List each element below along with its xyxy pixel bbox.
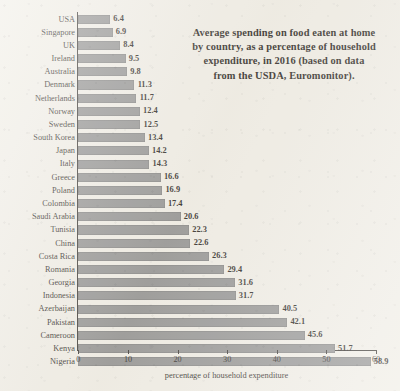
category-label: Azerbaijan <box>0 303 75 314</box>
bar-value-label: 40.5 <box>282 303 297 315</box>
category-label: Romania <box>0 264 75 275</box>
category-label: Costa Rica <box>0 251 75 262</box>
bar-value-label: 20.6 <box>184 211 199 223</box>
bar <box>78 54 125 63</box>
chart-title-line: by country, as a percentage of household <box>178 40 390 54</box>
bar-value-label: 6.9 <box>116 26 126 38</box>
category-label: China <box>0 238 75 249</box>
bar <box>78 265 224 274</box>
bar-row: Costa Rica26.3 <box>0 250 400 263</box>
x-tick-label: 30 <box>212 355 242 364</box>
bar-row: Romania29.4 <box>0 263 400 276</box>
bar <box>78 107 140 116</box>
x-tick-label: 0 <box>63 355 93 364</box>
category-label: Denmark <box>0 79 75 90</box>
chart-title-line: expenditure, in 2016 (based on data <box>178 54 390 68</box>
bar-row: Sweden12.5 <box>0 118 400 131</box>
bar <box>78 120 140 129</box>
bar-value-label: 9.5 <box>129 53 139 65</box>
bar <box>78 146 148 155</box>
x-tick-label: 50 <box>311 355 341 364</box>
bar-row: Colombia17.4 <box>0 197 400 210</box>
bar-row: Norway12.4 <box>0 105 400 118</box>
category-label: Greece <box>0 172 75 183</box>
bar-row: Kenya51.7 <box>0 342 400 355</box>
bar-value-label: 11.7 <box>140 92 154 104</box>
chart-title-line: from the USDA, Euromonitor). <box>178 69 390 83</box>
bar <box>78 160 149 169</box>
bar-value-label: 12.4 <box>143 105 158 117</box>
category-label: Singapore <box>0 27 75 38</box>
bar-row: Azerbaijan40.5 <box>0 302 400 315</box>
category-label: UK <box>0 40 75 51</box>
category-label: Georgia <box>0 277 75 288</box>
bar-value-label: 31.6 <box>238 277 253 289</box>
x-tick-mark <box>326 350 327 354</box>
bar <box>78 344 334 353</box>
bar-row: Tunisia22.3 <box>0 223 400 236</box>
bar-value-label: 8.4 <box>123 39 133 51</box>
bar-value-label: 42.1 <box>290 316 305 328</box>
bar-row: Japan14.2 <box>0 144 400 157</box>
bar-value-label: 14.2 <box>152 145 167 157</box>
x-tick-mark <box>376 350 377 354</box>
bar-row: Pakistan42.1 <box>0 316 400 329</box>
bar-row: Italy14.3 <box>0 157 400 170</box>
bar-row: Saudi Arabia20.6 <box>0 210 400 223</box>
category-label: Kenya <box>0 343 75 354</box>
food-spending-bar-chart: USA6.4Singapore6.9UK8.4Ireland9.5Austral… <box>0 0 400 391</box>
bar <box>78 252 208 261</box>
x-tick-mark <box>227 350 228 354</box>
bar-value-label: 22.3 <box>192 224 207 236</box>
category-label: Italy <box>0 158 75 169</box>
bar-row: Cameroon45.6 <box>0 329 400 342</box>
bar <box>78 199 164 208</box>
x-tick-mark <box>78 350 79 354</box>
x-tick-label: 40 <box>262 355 292 364</box>
bar-value-label: 16.9 <box>165 184 180 196</box>
x-tick-mark <box>277 350 278 354</box>
category-label: Tunisia <box>0 224 75 235</box>
chart-title: Average spending on food eaten at homeby… <box>178 26 390 83</box>
bar <box>78 239 190 248</box>
bar-value-label: 22.6 <box>194 237 209 249</box>
category-label: Australia <box>0 66 75 77</box>
bar-value-label: 9.8 <box>130 66 140 78</box>
bar <box>78 173 160 182</box>
bar <box>78 133 144 142</box>
bar <box>78 94 136 103</box>
bar-value-label: 12.5 <box>144 119 159 131</box>
bar-row: Greece16.6 <box>0 171 400 184</box>
bar-value-label: 16.6 <box>164 171 179 183</box>
bar <box>78 278 235 287</box>
bar-value-label: 51.7 <box>338 343 353 355</box>
bar <box>78 186 162 195</box>
x-tick-label: 20 <box>163 355 193 364</box>
category-label: USA <box>0 14 75 25</box>
category-label: Netherlands <box>0 93 75 104</box>
category-label: Japan <box>0 145 75 156</box>
category-label: Ireland <box>0 53 75 64</box>
bar-row: Indonesia31.7 <box>0 289 400 302</box>
bar <box>78 331 304 340</box>
x-tick-mark <box>128 350 129 354</box>
bar-value-label: 14.3 <box>153 158 168 170</box>
category-label: Norway <box>0 106 75 117</box>
category-label: Colombia <box>0 198 75 209</box>
bar-row: South Korea13.4 <box>0 131 400 144</box>
category-label: Saudi Arabia <box>0 211 75 222</box>
bar-row: Poland16.9 <box>0 184 400 197</box>
bar-value-label: 29.4 <box>227 264 242 276</box>
bar <box>78 318 287 327</box>
category-label: Pakistan <box>0 317 75 328</box>
bar-value-label: 11.3 <box>138 79 152 91</box>
bar <box>78 67 127 76</box>
bar-value-label: 17.4 <box>168 198 183 210</box>
bar <box>78 28 112 37</box>
category-label: Sweden <box>0 119 75 130</box>
bar <box>78 15 110 24</box>
bar <box>78 225 189 234</box>
category-label: Cameroon <box>0 330 75 341</box>
chart-title-line: Average spending on food eaten at home <box>178 26 390 40</box>
bar-value-label: 26.3 <box>212 250 227 262</box>
